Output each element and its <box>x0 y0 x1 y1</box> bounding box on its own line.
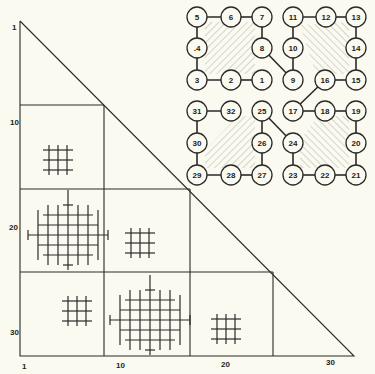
svg-text:14: 14 <box>352 44 361 53</box>
node-12: 12 <box>316 7 336 27</box>
bottom-axis-label: 10 <box>116 361 125 370</box>
svg-text:31: 31 <box>193 107 202 116</box>
matrix-partition-diagram: 1102030 1102030 567.48321111213101491615… <box>0 0 375 374</box>
svg-text:6: 6 <box>229 13 234 22</box>
svg-text:25: 25 <box>258 107 267 116</box>
svg-text:5: 5 <box>195 13 200 22</box>
cluster-25-32-hatch <box>205 116 255 168</box>
svg-text:.4: .4 <box>194 44 201 53</box>
svg-text:24: 24 <box>289 139 298 148</box>
svg-text:29: 29 <box>193 171 202 180</box>
node-30: 30 <box>187 133 207 153</box>
node-15: 15 <box>346 70 366 90</box>
left-axis-label: 1 <box>12 23 17 32</box>
node-23: 23 <box>283 165 303 185</box>
cluster-1-8-hatch <box>205 22 255 74</box>
node-24: 24 <box>283 133 303 153</box>
node-10: 10 <box>283 38 303 58</box>
node-5: 5 <box>187 7 207 27</box>
cluster-hatching <box>205 22 349 168</box>
node-25: 25 <box>252 101 272 121</box>
node-13: 13 <box>346 7 366 27</box>
left-axis-label: 30 <box>10 328 19 337</box>
node-11: 11 <box>283 7 303 27</box>
node-14: 14 <box>346 38 366 58</box>
small-grid-glyph <box>62 296 92 326</box>
svg-text:20: 20 <box>352 139 361 148</box>
node-18: 18 <box>315 101 335 121</box>
svg-text:16: 16 <box>321 76 330 85</box>
node-6: 6 <box>221 7 241 27</box>
large-diamond-grid-glyph <box>28 190 108 270</box>
bottom-axis-label: 1 <box>22 362 27 371</box>
node-16: 16 <box>315 70 335 90</box>
bottom-axis-label: 30 <box>326 358 335 367</box>
sparsity-patterns <box>28 145 241 355</box>
svg-text:8: 8 <box>260 44 265 53</box>
large-diamond-grid-glyph <box>110 275 190 355</box>
svg-text:17: 17 <box>289 107 298 116</box>
left-axis-labels: 1102030 <box>9 23 19 337</box>
left-axis-label: 10 <box>10 118 19 127</box>
svg-text:22: 22 <box>321 171 330 180</box>
bottom-axis-labels: 1102030 <box>22 358 335 371</box>
svg-text:9: 9 <box>291 76 296 85</box>
svg-text:19: 19 <box>352 107 361 116</box>
svg-text:2: 2 <box>229 76 234 85</box>
svg-text:23: 23 <box>289 171 298 180</box>
bottom-axis-label: 20 <box>221 360 230 369</box>
small-grid-glyph <box>43 145 73 175</box>
node-27: 27 <box>252 165 272 185</box>
svg-text:13: 13 <box>352 13 361 22</box>
svg-text:15: 15 <box>352 76 361 85</box>
svg-text:3: 3 <box>195 76 200 85</box>
cluster-9-16-hatch <box>300 22 349 74</box>
node-32: 32 <box>221 101 241 121</box>
node-1: 1 <box>252 70 272 90</box>
svg-text:28: 28 <box>227 171 236 180</box>
cluster-17-24-hatch <box>300 116 349 168</box>
node-26: 26 <box>252 133 272 153</box>
svg-text:1: 1 <box>260 76 265 85</box>
node-3: 3 <box>187 70 207 90</box>
node-9: 9 <box>283 70 303 90</box>
svg-text:10: 10 <box>289 44 298 53</box>
node-29: 29 <box>187 165 207 185</box>
svg-text:26: 26 <box>258 139 267 148</box>
svg-text:11: 11 <box>289 13 298 22</box>
node-28: 28 <box>221 165 241 185</box>
svg-text:21: 21 <box>352 171 361 180</box>
node-4: .4 <box>187 38 207 58</box>
svg-text:12: 12 <box>322 13 331 22</box>
node-17: 17 <box>283 101 303 121</box>
svg-text:30: 30 <box>193 139 202 148</box>
small-grid-glyph <box>125 228 155 258</box>
svg-text:7: 7 <box>260 13 265 22</box>
node-31: 31 <box>187 101 207 121</box>
node-21: 21 <box>346 165 366 185</box>
svg-text:32: 32 <box>227 107 236 116</box>
svg-text:18: 18 <box>321 107 330 116</box>
small-grid-glyph <box>211 314 241 344</box>
svg-text:27: 27 <box>258 171 267 180</box>
node-20: 20 <box>346 133 366 153</box>
node-2: 2 <box>221 70 241 90</box>
node-8: 8 <box>252 38 272 58</box>
node-19: 19 <box>346 101 366 121</box>
node-22: 22 <box>315 165 335 185</box>
node-7: 7 <box>252 7 272 27</box>
left-axis-label: 20 <box>9 223 18 232</box>
